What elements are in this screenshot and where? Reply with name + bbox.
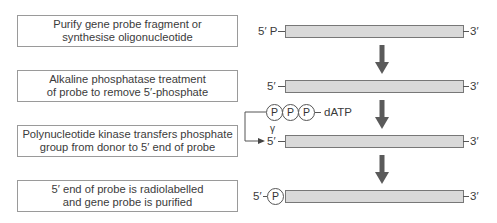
- five-prime-label: 5′: [267, 135, 276, 147]
- three-prime-label: 3′: [470, 135, 479, 147]
- probe-end-line: [463, 196, 469, 197]
- probe-end-line: [278, 141, 285, 142]
- radiolabel-phosphate-icon: P: [267, 188, 284, 205]
- probe-strand: [285, 135, 464, 148]
- three-prime-label: 3′: [470, 190, 479, 202]
- probe-end-line: [463, 141, 469, 142]
- five-prime-label: 5′: [253, 190, 262, 202]
- probe-strand: [285, 190, 464, 203]
- arrow-down-icon: [374, 155, 390, 185]
